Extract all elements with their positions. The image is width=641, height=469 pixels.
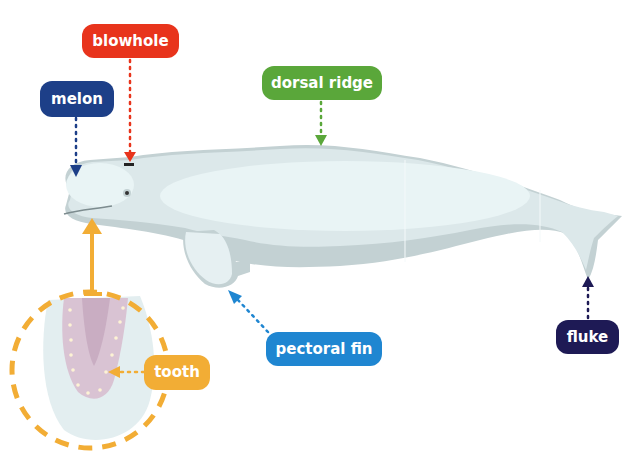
label-tooth: tooth — [144, 355, 210, 390]
label-fluke: fluke — [556, 320, 619, 354]
beluga-anatomy-diagram: blowhole melon dorsal ridge fluke pector… — [0, 0, 641, 469]
whale-body-highlight — [160, 161, 530, 231]
dorsal-ridge-arrowhead — [315, 135, 327, 146]
label-melon: melon — [40, 81, 114, 117]
label-blowhole: blowhole — [82, 24, 179, 58]
blowhole-mark — [124, 163, 134, 166]
label-dorsal-ridge: dorsal ridge — [262, 66, 382, 100]
label-pectoral-fin: pectoral fin — [266, 332, 382, 366]
eye-pupil — [125, 191, 129, 195]
fluke-arrowhead — [582, 276, 594, 287]
